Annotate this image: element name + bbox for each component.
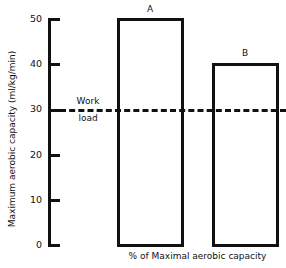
workload-label-top: Work (68, 96, 108, 106)
y-tick-30: 30 (24, 103, 42, 114)
y-tick-mark-20 (48, 154, 60, 157)
y-tick-10: 10 (24, 194, 42, 205)
y-tick-mark-0 (48, 244, 60, 247)
bar-a (117, 18, 184, 247)
bar-b (212, 63, 279, 247)
y-tick-0: 0 (24, 239, 42, 250)
x-axis-label: % of Maximal aerobic capacity (120, 251, 275, 261)
y-tick-mark-10 (48, 199, 60, 202)
y-tick-40: 40 (24, 58, 42, 69)
y-axis-label: Maximum aerobic capacity (ml/kg/min) (7, 39, 21, 239)
y-tick-mark-40 (48, 63, 60, 66)
y-tick-mark-30 (48, 109, 60, 112)
y-tick-50: 50 (24, 13, 42, 24)
y-axis-line (48, 18, 51, 247)
y-tick-mark-50 (48, 18, 60, 21)
bar-b-label: B (235, 48, 255, 58)
y-tick-20: 20 (24, 149, 42, 160)
workload-label-bottom: load (68, 113, 108, 123)
bar-a-label: A (140, 4, 160, 14)
workload-reference-line (60, 109, 286, 112)
